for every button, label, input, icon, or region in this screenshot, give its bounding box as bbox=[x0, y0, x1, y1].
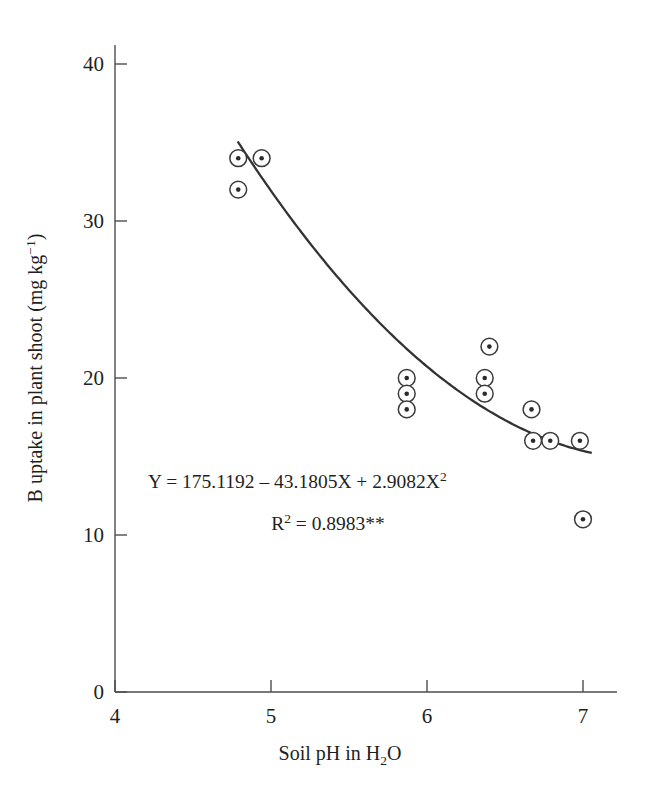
x-axis-title: Soil pH in H2O bbox=[279, 742, 402, 768]
x-tick-label: 4 bbox=[110, 704, 121, 728]
x-tick-label: 5 bbox=[266, 704, 277, 728]
data-point bbox=[398, 401, 415, 418]
data-point-center-dot bbox=[548, 439, 553, 444]
y-axis-title: B uptake in plant shoot (mg kg−1) bbox=[23, 234, 47, 503]
scatter-plot-figure: 40 30 20 10 0 4 5 6 7 Soil pH in H2O B u… bbox=[0, 0, 654, 791]
y-axis-tick-labels: 40 30 20 10 0 bbox=[83, 52, 104, 704]
y-axis-title-superscript: −1 bbox=[23, 240, 38, 254]
r-squared-exponent: 2 bbox=[284, 511, 291, 526]
data-point-center-dot bbox=[259, 156, 264, 161]
equation-body: Y = 175.1192 – 43.1805X + 2.9082X bbox=[148, 471, 440, 492]
data-point-center-dot bbox=[236, 187, 241, 192]
data-point bbox=[523, 401, 540, 418]
r-squared-symbol: R bbox=[271, 513, 284, 534]
y-tick-label: 10 bbox=[83, 523, 104, 547]
y-axis-title-pre: B uptake in plant shoot (mg kg bbox=[24, 255, 47, 503]
data-point bbox=[476, 370, 493, 387]
x-axis-title-subscript: 2 bbox=[380, 753, 387, 768]
data-point-center-dot bbox=[578, 439, 583, 444]
x-axis-ticks bbox=[115, 680, 583, 692]
data-point-center-dot bbox=[482, 391, 487, 396]
data-point bbox=[253, 150, 270, 167]
y-tick-label: 20 bbox=[83, 366, 104, 390]
data-point-center-dot bbox=[236, 156, 241, 161]
y-tick-label: 30 bbox=[83, 209, 104, 233]
data-point-center-dot bbox=[487, 344, 492, 349]
x-tick-label: 6 bbox=[422, 704, 433, 728]
equation-exponent: 2 bbox=[440, 469, 447, 484]
data-point bbox=[525, 432, 542, 449]
data-point-center-dot bbox=[482, 376, 487, 381]
data-point bbox=[230, 181, 247, 198]
data-point-center-dot bbox=[529, 407, 534, 412]
data-point-center-dot bbox=[404, 376, 409, 381]
y-tick-label: 0 bbox=[94, 680, 105, 704]
data-point bbox=[575, 511, 592, 528]
data-point-center-dot bbox=[404, 407, 409, 412]
data-point bbox=[542, 432, 559, 449]
plot-canvas: 40 30 20 10 0 4 5 6 7 Soil pH in H2O B u… bbox=[0, 0, 654, 791]
data-point-center-dot bbox=[581, 517, 586, 522]
data-point bbox=[571, 432, 588, 449]
x-axis-title-pre: Soil pH in H bbox=[279, 742, 381, 765]
y-axis-ticks bbox=[115, 64, 127, 692]
regression-equation-label: Y = 175.1192 – 43.1805X + 2.9082X2 bbox=[148, 469, 447, 492]
x-axis-tick-labels: 4 5 6 7 bbox=[110, 704, 589, 728]
data-point-center-dot bbox=[404, 391, 409, 396]
r-squared-value: = 0.8983** bbox=[291, 513, 385, 534]
data-point bbox=[398, 370, 415, 387]
x-tick-label: 7 bbox=[578, 704, 589, 728]
data-point bbox=[476, 385, 493, 402]
data-point bbox=[398, 385, 415, 402]
data-point bbox=[230, 150, 247, 167]
x-axis-title-post: O bbox=[387, 742, 401, 764]
y-tick-label: 40 bbox=[83, 52, 104, 76]
data-point-center-dot bbox=[531, 439, 536, 444]
data-point bbox=[481, 338, 498, 355]
y-axis-title-post: ) bbox=[24, 234, 47, 241]
r-squared-label: R2 = 0.8983** bbox=[271, 511, 385, 534]
